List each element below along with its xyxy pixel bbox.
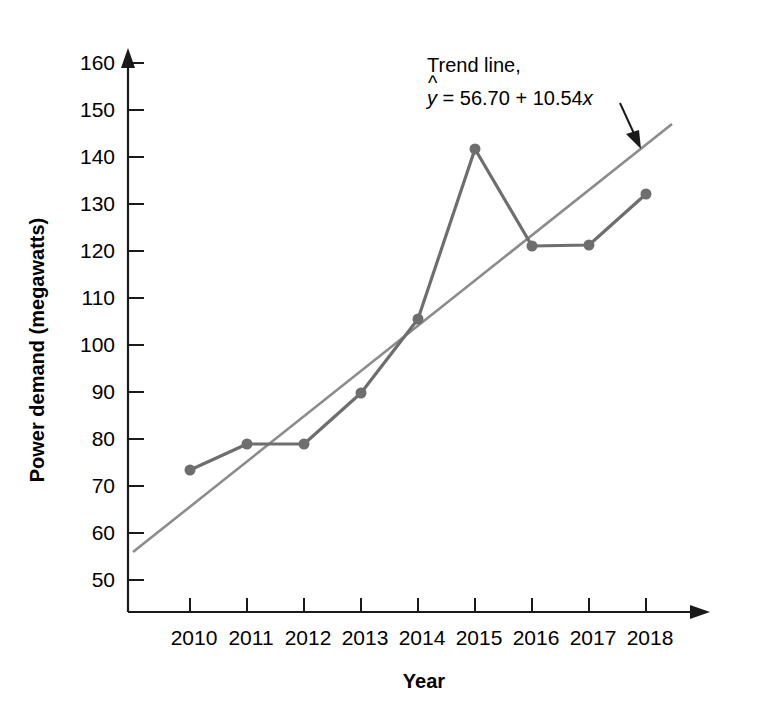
annotation-line-1: Trend line,	[427, 54, 521, 76]
annotation-hat-accent: ^	[428, 72, 438, 94]
x-tick-label-2013: 2013	[342, 626, 389, 649]
y-tick-label-130: 130	[80, 192, 115, 215]
y-axis-tick-labels: 50 60 70 80 90 100 110 120 130 140 150 1…	[80, 51, 115, 591]
data-point-2010	[185, 465, 196, 476]
data-point-markers	[185, 144, 652, 476]
x-tick-label-2017: 2017	[570, 626, 617, 649]
x-axis-tick-labels: 2010 2011 2012 2013 2014 2015 2016 2017 …	[171, 626, 674, 649]
x-axis-ticks	[190, 598, 646, 612]
annotation-line-2: y = 56.70 + 10.54x	[425, 87, 594, 109]
y-tick-label-160: 160	[80, 51, 115, 74]
y-tick-label-60: 60	[92, 521, 115, 544]
y-tick-label-140: 140	[80, 145, 115, 168]
x-tick-label-2015: 2015	[456, 626, 503, 649]
x-tick-label-2010: 2010	[171, 626, 218, 649]
y-axis-title: Power demand (megawatts)	[26, 218, 48, 483]
data-point-2017	[584, 240, 595, 251]
y-tick-label-150: 150	[80, 98, 115, 121]
x-tick-label-2011: 2011	[228, 626, 273, 649]
y-tick-label-70: 70	[92, 474, 115, 497]
x-axis-title: Year	[403, 670, 445, 692]
data-point-2015	[470, 144, 481, 155]
data-point-2018	[641, 189, 652, 200]
y-tick-label-80: 80	[92, 427, 115, 450]
y-axis-ticks	[128, 63, 144, 580]
data-point-2013	[356, 388, 367, 399]
x-axis-arrowhead	[690, 605, 710, 619]
y-tick-label-120: 120	[80, 239, 115, 262]
data-series-line	[190, 149, 646, 470]
y-tick-label-100: 100	[80, 333, 115, 356]
y-tick-label-50: 50	[92, 568, 115, 591]
data-point-2012	[299, 439, 310, 450]
annotation-x-symbol: x	[582, 87, 594, 109]
trend-line-annotation: Trend line, y = 56.70 + 10.54x ^	[425, 54, 641, 149]
x-tick-label-2018: 2018	[627, 626, 674, 649]
y-axis-arrowhead	[121, 48, 135, 68]
x-tick-label-2014: 2014	[399, 626, 446, 649]
data-point-2014	[413, 314, 424, 325]
annotation-equation-rest: = 56.70 + 10.54	[437, 87, 583, 109]
y-tick-label-90: 90	[92, 380, 115, 403]
x-tick-label-2016: 2016	[513, 626, 560, 649]
data-point-2016	[527, 241, 538, 252]
data-point-2011	[242, 439, 253, 450]
y-tick-label-110: 110	[82, 286, 115, 309]
annotation-arrow-head	[626, 130, 641, 149]
chart-container: 50 60 70 80 90 100 110 120 130 140 150 1…	[0, 0, 762, 722]
y-axis	[121, 48, 135, 612]
power-demand-line-chart: 50 60 70 80 90 100 110 120 130 140 150 1…	[0, 0, 762, 722]
x-tick-label-2012: 2012	[285, 626, 332, 649]
